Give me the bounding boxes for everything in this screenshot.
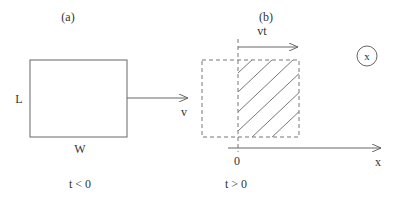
hatched-region [238,58,305,139]
displacement-label: vt [257,24,267,38]
circled-x-label: x [364,50,370,62]
length-label: L [15,92,22,106]
panel-b-label: (b) [259,10,273,24]
time-label-b: t > 0 [225,177,247,191]
time-label-a: t < 0 [69,177,91,191]
rectangle-loop [30,60,127,137]
panel-a-label: (a) [61,10,74,24]
panel-b: (b) vt 0 x x t > 0 [202,10,381,191]
panel-a: (a) L W v t < 0 [15,10,188,191]
x-axis-label: x [375,155,381,169]
diagram-canvas: (a) L W v t < 0 (b) vt 0 x x t > 0 [0,0,398,199]
origin-label: 0 [234,154,240,168]
velocity-label: v [181,105,187,119]
width-label: W [74,142,86,156]
